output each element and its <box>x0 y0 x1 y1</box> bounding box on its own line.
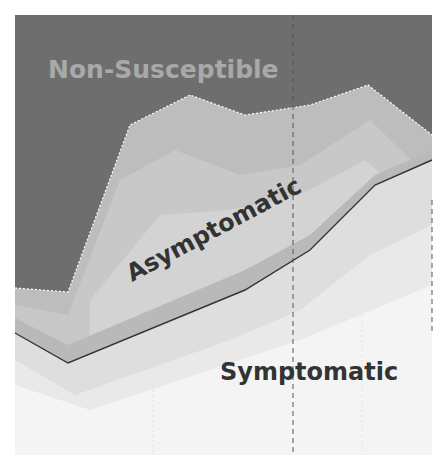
stacked-area-chart: Non-Susceptible Asymptomatic Symptomatic <box>0 0 447 473</box>
non-susceptible-label: Non-Susceptible <box>48 55 279 84</box>
symptomatic-label: Symptomatic <box>220 358 398 386</box>
